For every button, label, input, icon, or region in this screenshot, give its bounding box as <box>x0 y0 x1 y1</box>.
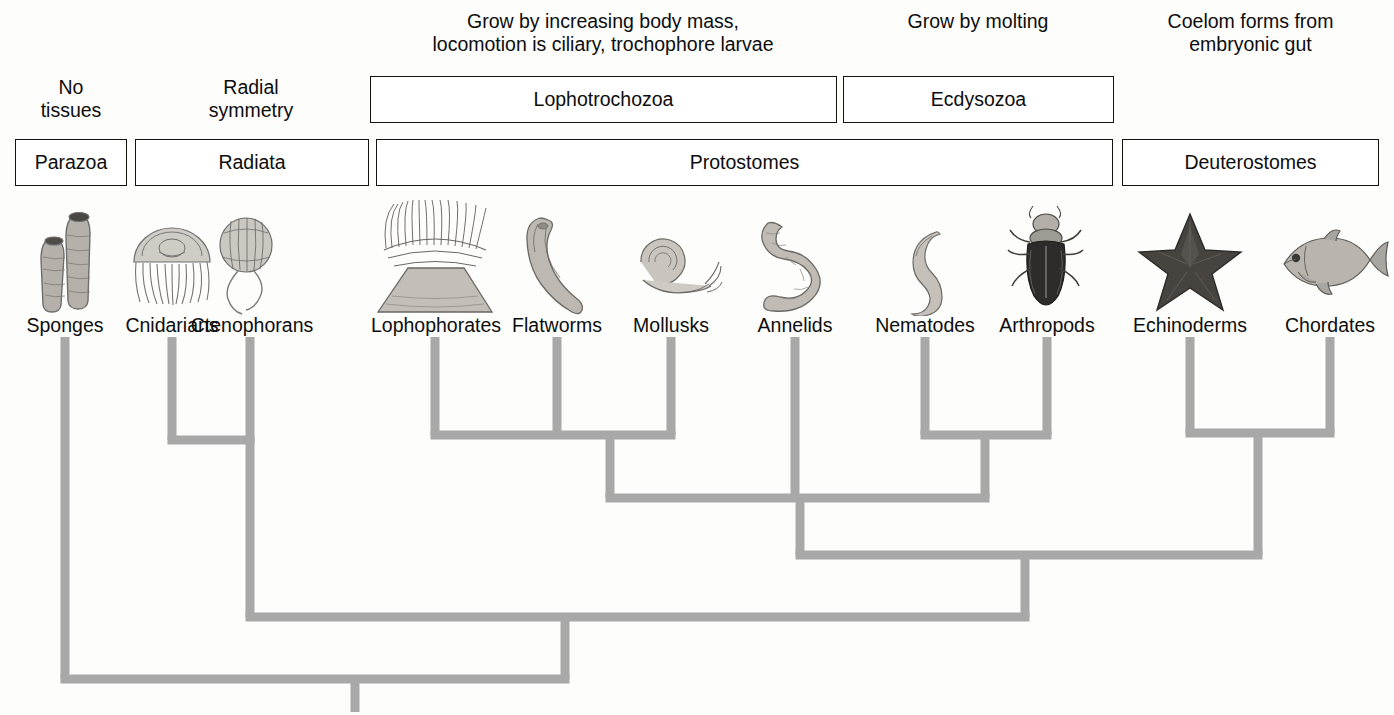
clade-box-lophotrochozoa[interactable]: Lophotrochozoa <box>370 76 837 123</box>
annotation-ecdysozoa-traits: Grow by molting <box>848 10 1108 33</box>
tip-label-mollusks: Mollusks <box>633 314 709 337</box>
clade-box-parazoa[interactable]: Parazoa <box>15 139 127 186</box>
annotation-radial-symmetry: Radial symmetry <box>155 76 347 122</box>
sponge-illustration <box>23 205 107 313</box>
tip-label-sponges: Sponges <box>27 314 104 337</box>
annotation-lophotrochozoa-traits: Grow by increasing body mass, locomotion… <box>373 10 833 56</box>
roundworm-illustration <box>890 228 960 316</box>
beetle-illustration <box>1003 202 1091 314</box>
earthworm-illustration <box>752 215 838 315</box>
annotation-no-tissues: No tissues <box>0 76 142 122</box>
annotation-deuterostome-traits: Coelom forms from embryonic gut <box>1128 10 1373 56</box>
starfish-illustration <box>1137 212 1243 314</box>
flatworm-illustration <box>518 212 596 316</box>
clade-box-protostomes[interactable]: Protostomes <box>376 139 1113 186</box>
figure-canvas: No tissues Radial symmetry Grow by incre… <box>0 0 1394 715</box>
comb-jelly-illustration <box>204 213 296 318</box>
clade-box-deuterostomes[interactable]: Deuterostomes <box>1122 139 1379 186</box>
clade-box-radiata[interactable]: Radiata <box>135 139 369 186</box>
tip-label-arthropods: Arthropods <box>999 314 1094 337</box>
tip-label-annelids: Annelids <box>758 314 833 337</box>
clade-box-ecdysozoa[interactable]: Ecdysozoa <box>843 76 1114 123</box>
tip-label-ctenophorans: Ctenophorans <box>191 314 314 337</box>
tip-label-chordates: Chordates <box>1285 314 1375 337</box>
snail-illustration <box>619 222 723 314</box>
lophophore-illustration <box>372 200 498 315</box>
fish-illustration <box>1270 222 1390 306</box>
tip-label-flatworms: Flatworms <box>512 314 602 337</box>
tip-label-echinoderms: Echinoderms <box>1133 314 1247 337</box>
tip-label-nematodes: Nematodes <box>875 314 975 337</box>
tip-label-lophophorates: Lophophorates <box>371 314 501 337</box>
